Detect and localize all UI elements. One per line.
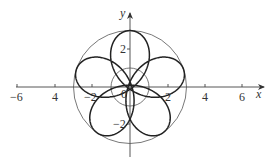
x-tick-label-6: 6 xyxy=(239,90,245,104)
x-tick-label-4: 4 xyxy=(202,90,208,104)
x-tick-label-neg2: −2 xyxy=(84,90,97,104)
plot: −6 4 −2 2 4 6 0 2 −2 x y xyxy=(0,0,277,158)
y-tick-label-2: 2 xyxy=(120,42,126,56)
x-axis-label: x xyxy=(255,87,262,101)
x-tick-label-neg6: −6 xyxy=(10,90,23,104)
origin-label: 0 xyxy=(121,87,127,101)
x-tick-label-neg4: 4 xyxy=(52,90,58,104)
y-tick-label-neg2: −2 xyxy=(113,117,126,131)
x-ticks xyxy=(17,49,242,124)
x-tick-label-2: 2 xyxy=(165,90,171,104)
y-axis-label: y xyxy=(119,6,126,20)
